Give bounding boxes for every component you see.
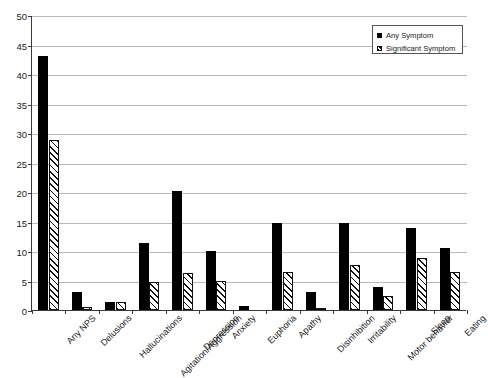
bar-category-group	[166, 15, 199, 310]
bar-category-group	[65, 15, 98, 310]
x-tick-mark	[467, 310, 468, 314]
y-tick-label: 25	[1, 158, 27, 169]
bar-significant-symptom	[450, 272, 460, 310]
bar-any-symptom	[206, 251, 216, 310]
y-axis-tick-labels: 05101520253035404550	[0, 16, 29, 311]
x-axis-label: Any NPS	[64, 313, 97, 346]
bar-category-group	[199, 15, 232, 310]
bar-category-group	[400, 15, 433, 310]
bar-category-group	[32, 15, 65, 310]
y-tick-label: 5	[1, 276, 27, 287]
y-tick-label: 45	[1, 40, 27, 51]
x-axis-label: Eating	[463, 313, 488, 338]
bar-category-group	[99, 15, 132, 310]
bar-any-symptom	[38, 56, 48, 310]
legend-label-any-symptom: Any Symptom	[386, 31, 433, 40]
bar-category-group	[233, 15, 266, 310]
y-tick-label: 0	[1, 306, 27, 317]
legend-item-any-symptom: Any Symptom	[377, 30, 462, 41]
bar-category-group	[300, 15, 333, 310]
bar-any-symptom	[172, 191, 182, 310]
y-tick-label: 15	[1, 217, 27, 228]
y-tick-label: 10	[1, 247, 27, 258]
bar-any-symptom	[339, 223, 349, 310]
legend-item-significant-symptom: Significant Symptom	[377, 43, 462, 54]
chart-legend: Any Symptom Significant Symptom	[372, 25, 463, 54]
bar-any-symptom	[239, 306, 249, 310]
x-axis-label: Apathy	[296, 313, 323, 340]
x-axis-category-labels: Any NPSDelusionsHallucinationsAgitation/…	[31, 313, 466, 366]
bar-any-symptom	[72, 292, 82, 310]
bar-significant-symptom	[316, 308, 326, 310]
bar-category-group	[266, 15, 299, 310]
bar-significant-symptom	[82, 307, 92, 310]
y-tick-label: 35	[1, 99, 27, 110]
bar-significant-symptom	[283, 272, 293, 310]
bar-any-symptom	[105, 302, 115, 310]
bar-any-symptom	[139, 243, 149, 310]
bar-significant-symptom	[350, 265, 360, 310]
y-tick-label: 40	[1, 70, 27, 81]
y-tick-label: 50	[1, 11, 27, 22]
solid-square-icon	[377, 33, 382, 38]
bar-any-symptom	[440, 248, 450, 310]
bar-any-symptom	[373, 287, 383, 310]
bar-significant-symptom	[216, 281, 226, 311]
bar-any-symptom	[406, 228, 416, 310]
bar-any-symptom	[272, 223, 282, 310]
bar-any-symptom	[306, 292, 316, 310]
bar-significant-symptom	[149, 282, 159, 310]
bar-significant-symptom	[116, 302, 126, 310]
bar-category-group	[132, 15, 165, 310]
legend-label-significant-symptom: Significant Symptom	[386, 44, 455, 53]
bar-category-group	[434, 15, 467, 310]
bar-significant-symptom	[183, 273, 193, 310]
bar-category-group	[367, 15, 400, 310]
y-tick-label: 30	[1, 129, 27, 140]
bar-significant-symptom	[383, 296, 393, 310]
x-axis-label: Euphoria	[265, 313, 298, 346]
bar-significant-symptom	[417, 258, 427, 311]
bar-significant-symptom	[49, 140, 59, 310]
plot-area	[31, 16, 466, 311]
bar-category-group	[333, 15, 366, 310]
y-tick-label: 20	[1, 188, 27, 199]
x-axis-label: Delusions	[99, 313, 134, 348]
hatched-square-icon	[377, 46, 382, 51]
x-axis-label: Hallucinations	[137, 313, 184, 360]
cropped-title-remnant	[0, 0, 473, 9]
